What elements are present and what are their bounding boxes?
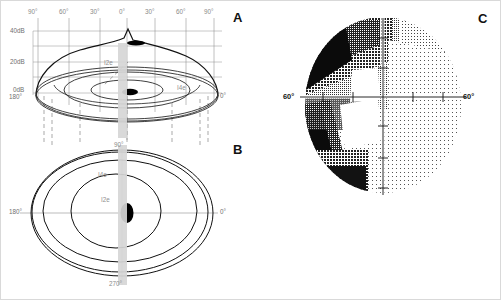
panel-c-label-60-right: 60° <box>463 92 474 101</box>
panel-letter-c: C <box>478 11 487 26</box>
figure-root: 90° 60° 30° 0° 30° 60° 90° 40dB 20dB 0dB… <box>0 0 502 301</box>
panel-c-grayscale-field <box>300 15 470 200</box>
panel-c-label-60-left: 60° <box>283 92 294 101</box>
panel-c-graphics <box>0 0 502 301</box>
